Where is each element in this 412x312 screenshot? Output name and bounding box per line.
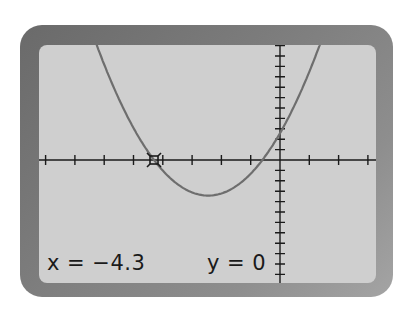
graph-plot bbox=[39, 45, 376, 283]
x-readout: x = −4.3 bbox=[47, 251, 145, 275]
y-readout: y = 0 bbox=[207, 251, 266, 275]
graph-screen: x = −4.3 y = 0 bbox=[39, 45, 376, 283]
parabola-curve bbox=[93, 45, 327, 196]
